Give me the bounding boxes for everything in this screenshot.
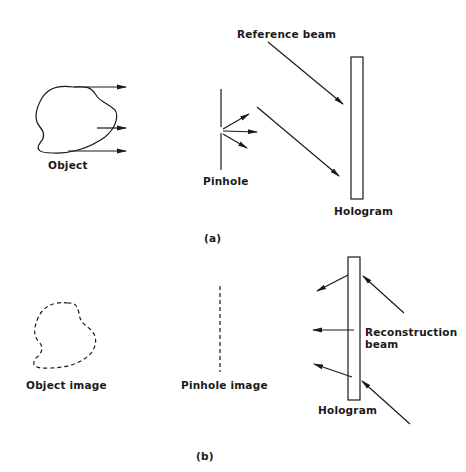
- object-image-label: Object image: [26, 379, 107, 391]
- reconstruction-beam-label-line1: Reconstruction: [365, 326, 457, 338]
- object-image-shape: [34, 303, 96, 369]
- object-beam-arrow: [257, 107, 339, 176]
- panel-a-caption: (a): [204, 232, 221, 244]
- diffracted-ray-upper: [317, 275, 348, 291]
- hologram-label: Hologram: [334, 205, 393, 217]
- pinhole-ray-down: [223, 134, 247, 148]
- pinhole-ray-up: [223, 114, 249, 129]
- diffracted-ray-lower: [314, 364, 352, 377]
- reconstruction-hologram-plate: [348, 257, 360, 400]
- panel-a: Object Pinhole Reference beam Hologram (…: [36, 28, 393, 244]
- panel-b: Object image Pinhole image Hologram Reco…: [26, 257, 457, 462]
- object-shape: [36, 86, 117, 153]
- hologram-diagram: Object Pinhole Reference beam Hologram (…: [0, 0, 466, 472]
- reconstruction-hologram-label: Hologram: [318, 404, 377, 416]
- panel-b-caption: (b): [196, 450, 214, 462]
- reconstruction-beam-upper: [363, 276, 404, 313]
- reconstruction-beam-lower: [362, 381, 410, 424]
- pinhole-label: Pinhole: [203, 175, 249, 187]
- object-label: Object: [48, 159, 88, 171]
- reconstruction-beam-label-line2: beam: [365, 338, 398, 350]
- pinhole-image-label: Pinhole image: [181, 379, 268, 391]
- pinhole-ray-straight: [223, 131, 257, 132]
- reference-beam-label: Reference beam: [237, 28, 336, 40]
- hologram-plate: [351, 57, 363, 199]
- reference-beam-arrow: [268, 42, 343, 104]
